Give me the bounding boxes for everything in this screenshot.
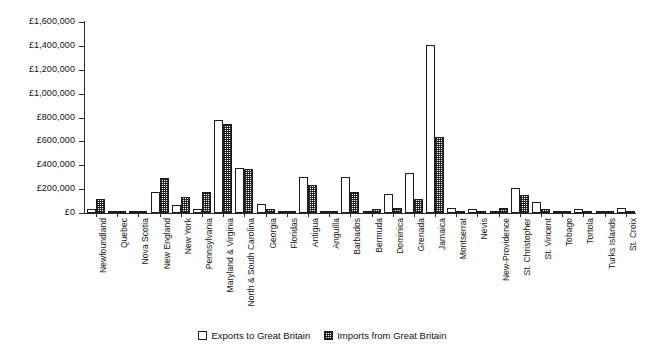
x-axis-tick-label: Nova Scotia — [141, 218, 150, 264]
bar-group — [617, 22, 635, 213]
plot-area — [85, 22, 636, 213]
bar-group — [87, 22, 105, 213]
x-axis-tick-label: Floridas — [290, 218, 299, 249]
x-axis-tick-label: Tortola — [586, 218, 595, 244]
bar-group — [320, 22, 338, 213]
bar-imports — [266, 209, 275, 213]
y-axis-tick-label: £1,400,000 — [0, 41, 75, 50]
x-axis-tick — [499, 213, 500, 217]
bar-imports — [181, 197, 190, 213]
bar-imports — [117, 211, 126, 213]
bar-imports — [520, 195, 529, 213]
bar-imports — [393, 208, 402, 213]
x-axis-line — [84, 213, 636, 214]
legend-swatch-imports-icon — [324, 331, 333, 340]
bar-exports — [299, 177, 308, 213]
bar-imports — [138, 211, 147, 213]
x-axis-tick-label: Grenada — [417, 218, 426, 251]
x-axis-tick — [350, 213, 351, 217]
x-axis-tick-label: Newfoundland — [99, 218, 108, 273]
x-axis-tick-label: Pennsylvania — [205, 218, 214, 269]
bar-exports — [214, 120, 223, 213]
bar-imports — [499, 208, 508, 213]
chart-legend: Exports to Great Britain Imports from Gr… — [0, 330, 645, 341]
x-axis-tick — [244, 213, 245, 217]
x-axis-tick — [160, 213, 161, 217]
bar-imports — [605, 211, 614, 213]
bar-imports — [541, 209, 550, 213]
bar-group — [214, 22, 232, 213]
bar-exports — [426, 45, 435, 213]
y-axis-label-slot: £200,000 — [0, 184, 75, 194]
x-axis-tick — [520, 213, 521, 217]
x-axis-tick-label: Dominica — [396, 218, 405, 254]
x-axis-tick — [372, 213, 373, 217]
legend-swatch-exports-icon — [198, 331, 207, 340]
bar-exports — [341, 177, 350, 213]
bar-imports — [287, 211, 296, 213]
x-axis-tick-label: Nevis — [480, 218, 489, 240]
bar-group — [257, 22, 275, 213]
bar-group — [574, 22, 592, 213]
y-axis-tick-label: £1,200,000 — [0, 65, 75, 74]
bar-group — [490, 22, 508, 213]
bar-group — [278, 22, 296, 213]
legend-label-imports: Imports from Great Britain — [337, 330, 446, 341]
x-axis-tick-label: Quebec — [120, 218, 129, 248]
x-axis-tick-label: Montserrat — [459, 218, 468, 259]
x-axis-tick-label: Antigua — [311, 218, 320, 247]
y-axis-label-slot: £800,000 — [0, 113, 75, 123]
x-axis-tick-label: St. Vincent — [544, 218, 553, 260]
bar-imports — [562, 211, 571, 213]
x-axis-tick-label: Jamaica — [438, 218, 447, 250]
bar-group — [193, 22, 211, 213]
y-axis-label-slot: £400,000 — [0, 160, 75, 170]
bar-imports — [244, 169, 253, 213]
bar-exports — [108, 211, 117, 213]
bar-imports — [583, 211, 592, 213]
x-axis-tick-label: Barbados — [353, 218, 362, 255]
x-axis-tick — [626, 213, 627, 217]
bar-group — [426, 22, 444, 213]
bar-imports — [329, 211, 338, 213]
x-axis-tick-label: Maryland & Virginia — [226, 218, 235, 293]
bar-group — [511, 22, 529, 213]
x-axis-tick — [117, 213, 118, 217]
x-axis-tick-label: Georgia — [269, 218, 278, 249]
bar-imports — [477, 211, 486, 213]
bar-group — [108, 22, 126, 213]
bar-group — [405, 22, 423, 213]
bar-exports — [574, 209, 583, 213]
y-axis-label-slot: £1,400,000 — [0, 41, 75, 51]
bar-group — [468, 22, 486, 213]
bar-exports — [151, 192, 160, 213]
bar-exports — [617, 208, 626, 213]
bar-imports — [414, 199, 423, 213]
y-axis-tick-label: £600,000 — [0, 136, 75, 145]
y-axis-tick-label: £0 — [0, 208, 75, 217]
x-axis-tick — [329, 213, 330, 217]
x-axis-tick — [181, 213, 182, 217]
bar-exports — [532, 202, 541, 213]
bar-exports — [384, 194, 393, 213]
y-axis-tick-label: £800,000 — [0, 113, 75, 122]
bar-imports — [372, 209, 381, 213]
bar-group — [235, 22, 253, 213]
bar-exports — [278, 211, 287, 213]
bar-exports — [320, 211, 329, 213]
x-axis-tick — [562, 213, 563, 217]
x-axis-tick — [393, 213, 394, 217]
bar-imports — [223, 124, 232, 213]
y-axis-label-slot: £1,600,000 — [0, 17, 75, 27]
bar-imports — [160, 178, 169, 213]
bar-imports — [350, 192, 359, 213]
bar-exports — [511, 188, 520, 213]
x-axis-tick — [583, 213, 584, 217]
x-axis-tick-label: New England — [163, 218, 172, 269]
x-axis-tick-label: Tobago — [565, 218, 574, 246]
bar-group — [363, 22, 381, 213]
x-axis-tick-label: New-Providence — [502, 218, 511, 281]
bar-group — [172, 22, 190, 213]
legend-item-exports: Exports to Great Britain — [198, 330, 310, 341]
x-axis-tick — [138, 213, 139, 217]
